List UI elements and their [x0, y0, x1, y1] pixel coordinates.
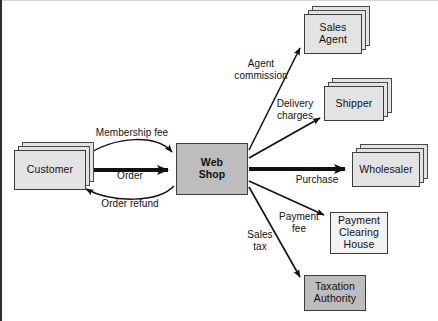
node-web-shop-label: Web Shop: [199, 157, 226, 181]
node-shipper-face: Shipper: [324, 86, 384, 121]
node-payment-clearing-house-label: Payment Clearing House: [338, 215, 380, 250]
node-sales-agent-label: Sales Agent: [319, 22, 347, 46]
connector-delivery-charges: [249, 118, 320, 158]
node-taxation-authority[interactable]: Taxation Authority: [304, 275, 366, 311]
node-web-shop-face: Web Shop: [176, 143, 248, 195]
flow-label-order: Order: [100, 170, 160, 182]
flow-label-purchase: Purchase: [288, 174, 346, 186]
flow-label-membership-fee: Membership fee: [84, 127, 180, 139]
node-wholesaler-face: Wholesaler: [352, 152, 420, 187]
node-payment-clearing-house[interactable]: Payment Clearing House: [330, 212, 388, 254]
node-sales-agent[interactable]: Sales Agent: [304, 14, 362, 54]
flow-label-sales-tax: Sales tax: [240, 229, 280, 252]
node-shipper[interactable]: Shipper: [324, 86, 384, 121]
node-sales-agent-face: Sales Agent: [304, 14, 362, 54]
node-wholesaler[interactable]: Wholesaler: [352, 152, 420, 187]
node-customer-label: Customer: [27, 164, 73, 176]
node-customer[interactable]: Customer: [14, 150, 86, 190]
flow-label-payment-fee: Payment fee: [272, 211, 326, 234]
flow-label-delivery-charges: Delivery charges: [268, 98, 322, 121]
node-payment-clearing-house-face: Payment Clearing House: [330, 212, 388, 254]
node-shipper-label: Shipper: [336, 98, 373, 110]
node-customer-face: Customer: [14, 150, 86, 190]
node-web-shop[interactable]: Web Shop: [176, 143, 248, 195]
diagram-canvas: Customer Web Shop Sales Agent Shipper Wh…: [0, 0, 438, 321]
flow-label-agent-commission: Agent commission: [225, 58, 297, 81]
connector-membership-fee: [82, 140, 172, 158]
flow-label-order-refund: Order refund: [84, 198, 176, 210]
connector-payment-fee: [249, 181, 324, 215]
node-taxation-authority-face: Taxation Authority: [304, 275, 366, 311]
node-taxation-authority-label: Taxation Authority: [314, 281, 356, 305]
node-wholesaler-label: Wholesaler: [359, 164, 413, 176]
